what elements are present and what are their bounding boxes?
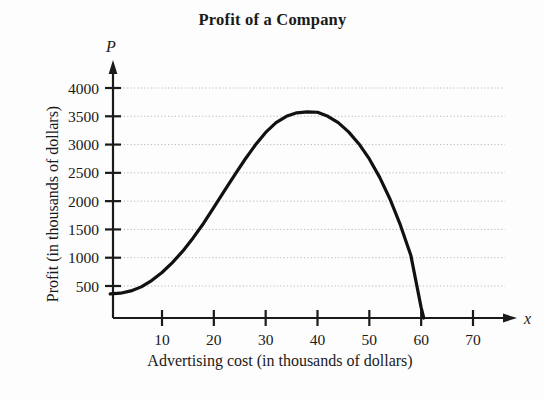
x-axis-arrow-icon [503, 314, 517, 323]
x-axis-ticks: 10203040506070 [154, 310, 481, 348]
y-tick-label: 1000 [68, 249, 99, 266]
x-tick-label: 30 [258, 331, 274, 348]
x-tick-label: 60 [413, 331, 429, 348]
y-tick-label: 1500 [68, 221, 99, 238]
gridlines [117, 88, 505, 286]
y-tick-label: 500 [76, 278, 100, 295]
y-tick-label: 3500 [68, 108, 99, 125]
x-axis-variable-label: x [523, 310, 531, 327]
x-tick-label: 20 [206, 331, 222, 348]
x-tick-label: 50 [362, 331, 378, 348]
chart-figure: Profit of a Company Profit (in thousands… [0, 0, 545, 400]
x-tick-label: 70 [465, 331, 481, 348]
y-tick-label: 4000 [68, 80, 99, 97]
profit-curve [110, 112, 424, 318]
y-tick-label: 2000 [68, 193, 99, 210]
y-axis-variable-label: P [105, 38, 116, 55]
y-tick-label: 2500 [68, 164, 99, 181]
y-axis-arrow-icon [109, 60, 118, 74]
y-tick-label: 3000 [68, 136, 99, 153]
x-tick-label: 40 [310, 331, 326, 348]
plot-area: 5001000150020002500300035004000 10203040… [0, 0, 545, 400]
x-tick-label: 10 [154, 331, 170, 348]
